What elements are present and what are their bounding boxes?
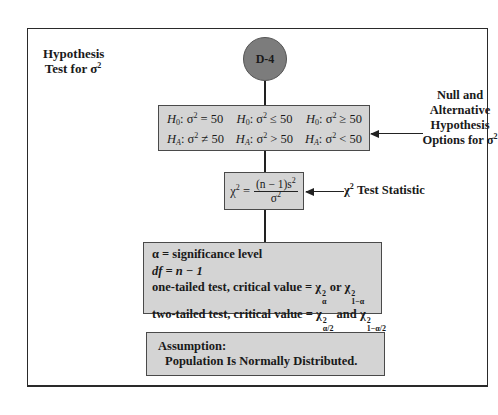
degrees-of-freedom: df = n − 1 — [152, 263, 374, 280]
alpha-definition: α = significance level — [152, 246, 374, 263]
node-label: D-4 — [256, 52, 275, 67]
connector-hypotheses-to-statistic — [264, 151, 266, 172]
hypotheses-box: H0: σ2 = 50 H0: σ2 ≤ 50 H0: σ2 ≥ 50 HA: … — [158, 105, 370, 151]
two-tailed-critical-value: two-tailed test, critical value = χ2α/2 … — [152, 306, 374, 333]
fraction-numerator: (n − 1)s2 — [254, 178, 298, 192]
one-tailed-critical-value: one-tailed test, critical value = χ2α or… — [152, 279, 374, 306]
test-statistic-fraction: (n − 1)s2 σ2 — [254, 178, 298, 205]
fraction-denominator: σ2 — [271, 192, 281, 205]
assumption-box: Assumption: Population Is Normally Distr… — [146, 332, 385, 376]
chi-square-symbol: χ2 = — [230, 184, 250, 199]
null-option-2: H0: σ2 ≤ 50 — [237, 111, 293, 131]
null-hypotheses-row: H0: σ2 = 50 H0: σ2 ≤ 50 H0: σ2 ≥ 50 — [167, 111, 362, 131]
statistic-side-label: χ2 Test Statistic — [344, 183, 425, 198]
test-statistic-box: χ2 = (n − 1)s2 σ2 — [224, 172, 304, 210]
alt-hypotheses-row: HA: σ2 ≠ 50 HA: σ2 > 50 HA: σ2 < 50 — [167, 131, 362, 151]
arrow-statistic-label — [306, 191, 344, 192]
alt-option-3: HA: σ2 < 50 — [305, 131, 362, 151]
step-node-d4: D-4 — [243, 37, 287, 81]
assumption-heading: Assumption: — [158, 339, 374, 354]
decision-criteria-box: α = significance level df = n − 1 one-ta… — [143, 242, 382, 314]
connector-node-to-hypotheses — [264, 81, 266, 105]
hypotheses-side-label: Null and Alternative Hypothesis Options … — [420, 88, 498, 148]
title-line-1: Hypothesis — [43, 46, 103, 61]
title-line-2: Test for σ2 — [43, 61, 103, 76]
alt-option-1: HA: σ2 ≠ 50 — [167, 131, 224, 151]
null-option-3: H0: σ2 ≥ 50 — [306, 111, 362, 131]
assumption-text: Population Is Normally Distributed. — [158, 354, 374, 369]
arrow-hypotheses-label — [371, 133, 423, 134]
alt-option-2: HA: σ2 > 50 — [236, 131, 293, 151]
connector-statistic-to-criteria — [264, 210, 266, 242]
null-option-1: H0: σ2 = 50 — [167, 111, 223, 131]
diagram-title: Hypothesis Test for σ2 — [43, 46, 103, 76]
